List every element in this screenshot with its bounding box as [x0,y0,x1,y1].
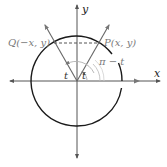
ray-to-Q [45,25,77,81]
angle-supplement-label: π − t [98,56,125,67]
point-P-label: P(x, y) [103,37,136,48]
angle-right-t-label: t [82,70,87,81]
angle-left-t-label: t [64,70,69,81]
y-axis-label: y [81,3,89,16]
x-axis-mid-arrow-icon [134,79,140,84]
x-axis-label: x [154,67,161,80]
point-Q-label: Q(−x, y) [8,37,50,48]
unit-circle-diagram: y x Q(−x, y) P(x, y) t t π − t [0,0,167,167]
arc-left-t [66,61,94,73]
